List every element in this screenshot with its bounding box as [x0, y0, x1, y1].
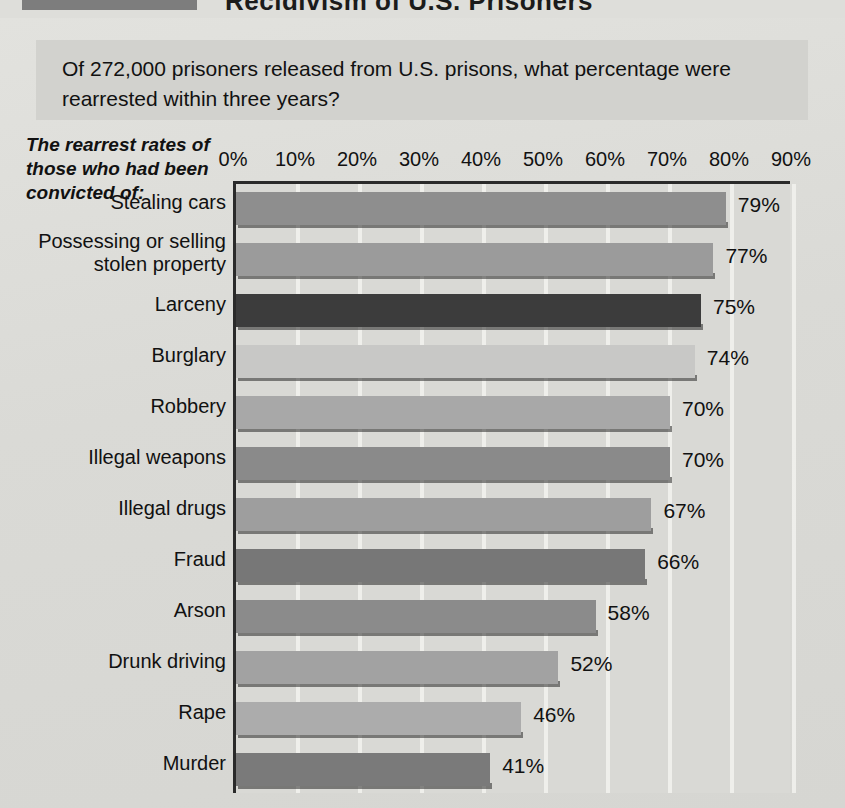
bar-row: 41%	[236, 747, 793, 794]
bar-value-label: 67%	[663, 499, 705, 523]
x-tick-20: 20%	[337, 148, 377, 171]
bar-row: 66%	[236, 543, 793, 590]
bar-row: 77%	[236, 237, 793, 284]
x-tick-40: 40%	[461, 148, 501, 171]
category-label-illegal-drugs: Illegal drugs	[11, 497, 226, 520]
x-tick-70: 70%	[647, 148, 687, 171]
bar-value-label: 46%	[533, 703, 575, 727]
bar-value-label: 79%	[738, 193, 780, 217]
category-labels: Stealing carsPossessing or selling stole…	[8, 181, 226, 793]
x-tick-50: 50%	[523, 148, 563, 171]
bar-row: 46%	[236, 696, 793, 743]
bar-burglary	[236, 345, 695, 378]
bar-value-label: 41%	[502, 754, 544, 778]
category-label-robbery: Robbery	[11, 395, 226, 418]
category-label-murder: Murder	[11, 752, 226, 775]
x-tick-0: 0%	[219, 148, 248, 171]
bar-chart: 0%10%20%30%40%50%60%70%80%90% 79%77%75%7…	[0, 18, 845, 808]
bar-row: 75%	[236, 288, 793, 335]
bar-row: 74%	[236, 339, 793, 386]
category-label-arson: Arson	[11, 599, 226, 622]
page-header-strip: Recidivism of U.S. Prisoners	[0, 0, 845, 18]
header-color-swatch	[22, 0, 197, 10]
bar-rape	[236, 702, 521, 735]
bar-row: 52%	[236, 645, 793, 692]
bar-illegal-drugs	[236, 498, 651, 531]
bar-larceny	[236, 294, 701, 327]
page-body: Of 272,000 prisoners released from U.S. …	[0, 18, 845, 808]
bar-value-label: 52%	[570, 652, 612, 676]
category-label-illegal-weapons: Illegal weapons	[11, 446, 226, 469]
bar-murder	[236, 753, 490, 786]
category-label-possessing-or-selling-stolen-property: Possessing or selling stolen property	[11, 230, 226, 276]
category-label-burglary: Burglary	[11, 344, 226, 367]
x-tick-90: 90%	[771, 148, 811, 171]
bar-row: 58%	[236, 594, 793, 641]
category-label-drunk-driving: Drunk driving	[11, 650, 226, 673]
bar-row: 70%	[236, 390, 793, 437]
category-label-fraud: Fraud	[11, 548, 226, 571]
bar-arson	[236, 600, 596, 633]
bar-value-label: 77%	[725, 244, 767, 268]
bar-row: 67%	[236, 492, 793, 539]
bar-row: 70%	[236, 441, 793, 488]
bar-drunk-driving	[236, 651, 558, 684]
page-title: Recidivism of U.S. Prisoners	[225, 0, 593, 17]
bar-value-label: 70%	[682, 448, 724, 472]
bar-robbery	[236, 396, 670, 429]
bar-stealing-cars	[236, 192, 726, 225]
x-tick-10: 10%	[275, 148, 315, 171]
x-tick-80: 80%	[709, 148, 749, 171]
plot-area: 79%77%75%74%70%70%67%66%58%52%46%41%	[233, 181, 790, 793]
bar-value-label: 70%	[682, 397, 724, 421]
x-tick-30: 30%	[399, 148, 439, 171]
bar-fraud	[236, 549, 645, 582]
category-label-rape: Rape	[11, 701, 226, 724]
bar-value-label: 66%	[657, 550, 699, 574]
bar-value-label: 75%	[713, 295, 755, 319]
category-label-stealing-cars: Stealing cars	[11, 191, 226, 214]
bar-possessing-or-selling-stolen-property	[236, 243, 713, 276]
category-label-larceny: Larceny	[11, 293, 226, 316]
bar-value-label: 58%	[608, 601, 650, 625]
bar-illegal-weapons	[236, 447, 670, 480]
bar-row: 79%	[236, 186, 793, 233]
x-tick-60: 60%	[585, 148, 625, 171]
bar-value-label: 74%	[707, 346, 749, 370]
